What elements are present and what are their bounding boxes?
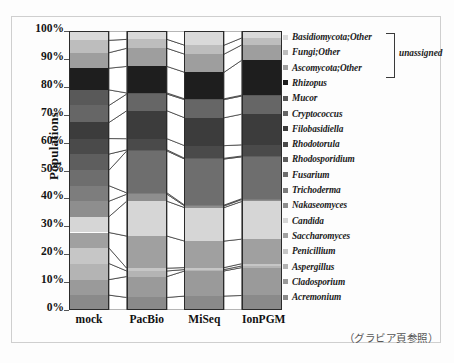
stacked-bar-plot-area xyxy=(69,31,282,310)
bar-segment xyxy=(127,150,167,151)
bar-segment xyxy=(184,158,224,159)
bar-segment xyxy=(184,100,224,118)
legend-swatch-icon xyxy=(283,233,288,238)
legend-swatch-icon xyxy=(283,157,288,162)
bar-segment xyxy=(242,145,282,156)
bar-column-pacbio[interactable] xyxy=(127,31,167,310)
y-tick-label: 40% xyxy=(41,189,64,201)
legend-swatch-icon xyxy=(283,295,288,300)
bar-segment xyxy=(184,45,224,54)
bar-segment xyxy=(242,60,282,95)
bar-column-mock[interactable] xyxy=(69,31,109,310)
legend-label: Cladosporium xyxy=(292,277,345,287)
legend-item[interactable]: Trichoderma xyxy=(283,183,341,197)
figure-caption: （グラビア頁参照） xyxy=(344,330,439,345)
legend-swatch-icon xyxy=(283,96,288,101)
legend-item[interactable]: Mucor xyxy=(283,91,317,105)
legend-label: Basidiomycota;Other xyxy=(292,32,372,42)
bar-segment xyxy=(242,114,282,145)
legend-label: Fusarium xyxy=(292,170,329,180)
legend-label: Rhizopus xyxy=(292,78,327,88)
bar-segment xyxy=(127,48,167,66)
bar-segment xyxy=(127,94,167,111)
legend-label: Penicillium xyxy=(292,246,335,256)
bar-column-ionpgm[interactable] xyxy=(242,31,282,310)
bar-segment xyxy=(69,105,109,122)
x-tick-label-ionpgm: IonPGM xyxy=(242,313,282,325)
bar-segment xyxy=(184,205,224,206)
bar-segment xyxy=(184,268,224,270)
bar-segment xyxy=(69,201,109,217)
x-axis-tick-labels: mockPacBioMiSeqIonPGM xyxy=(69,313,282,331)
legend-swatch-icon xyxy=(283,218,288,223)
legend-swatch-icon xyxy=(283,249,288,254)
legend-item[interactable]: Basidiomycota;Other xyxy=(283,30,372,44)
legend-item[interactable]: Ascomycota;Other xyxy=(283,61,362,75)
legend-item[interactable]: Filobasidiella xyxy=(283,122,343,136)
bar-segment xyxy=(184,159,224,205)
bar-segment xyxy=(69,139,109,155)
bar-segment xyxy=(242,295,282,310)
legend-label: Candida xyxy=(292,216,324,226)
bar-segment xyxy=(242,266,282,268)
unassigned-bracket xyxy=(386,33,395,78)
legend-swatch-icon xyxy=(283,142,288,147)
bar-segment xyxy=(184,72,224,99)
chart-figure: Populations 100%90%80%70%60%50%40%30%20%… xyxy=(0,0,454,363)
legend-item[interactable]: Rhodosporidium xyxy=(283,152,355,166)
legend-item[interactable]: Fungi;Other xyxy=(283,45,340,59)
bar-segment xyxy=(69,248,109,264)
legend-item[interactable]: Fusarium xyxy=(283,168,329,182)
legend-item[interactable]: Nakaseomyces xyxy=(283,198,347,212)
bar-segment xyxy=(127,151,167,193)
bar-segment xyxy=(242,38,282,45)
bar-segment xyxy=(69,295,109,310)
bar-segment xyxy=(242,31,282,38)
bar-segment xyxy=(242,95,282,96)
bar-segment xyxy=(127,201,167,236)
legend-label: Fungi;Other xyxy=(292,47,340,57)
legend-item[interactable]: Saccharomyces xyxy=(283,229,350,243)
legend-item[interactable]: Cryptococcus xyxy=(283,107,342,121)
bar-segment xyxy=(127,31,167,39)
bar-segment xyxy=(127,139,167,150)
bar-segment xyxy=(69,217,109,233)
y-tick-label: 100% xyxy=(35,22,64,34)
y-axis-tick-labels: 100%90%80%70%60%50%40%30%20%10%0% xyxy=(22,28,64,310)
legend-item[interactable]: Rhizopus xyxy=(283,76,327,90)
legend-swatch-icon xyxy=(283,188,288,193)
legend-item[interactable]: Aspergillus xyxy=(283,260,334,274)
bar-column-miseq[interactable] xyxy=(184,31,224,310)
bar-segment xyxy=(69,154,109,170)
y-tick-label: 0% xyxy=(47,301,64,313)
bar-segment xyxy=(127,93,167,94)
legend-item[interactable]: Candida xyxy=(283,214,324,228)
legend-label: Mucor xyxy=(292,93,317,103)
legend-item[interactable]: Acremonium xyxy=(283,290,341,304)
bar-segment xyxy=(242,268,282,296)
legend-label: Cryptococcus xyxy=(292,109,342,119)
y-tick-label: 90% xyxy=(41,50,64,62)
legend-item[interactable]: Penicillium xyxy=(283,244,335,258)
bar-segment xyxy=(242,156,282,157)
legend-item[interactable]: Cladosporium xyxy=(283,275,345,289)
legend-swatch-icon xyxy=(283,126,288,131)
y-tick-label: 30% xyxy=(41,217,64,229)
bar-segment xyxy=(242,201,282,239)
legend-swatch-icon xyxy=(283,80,288,85)
bar-segment xyxy=(127,193,167,194)
bar-segment xyxy=(127,297,167,310)
unassigned-label: unassigned xyxy=(399,48,442,58)
bar-segment xyxy=(69,90,109,106)
legend-label: Trichoderma xyxy=(292,185,341,195)
legend-swatch-icon xyxy=(283,279,288,284)
bar-segment xyxy=(127,268,167,271)
bar-segment xyxy=(184,296,224,310)
bar-segment xyxy=(242,157,282,199)
y-tick-label: 70% xyxy=(41,106,64,118)
legend-item[interactable]: Rhodotorula xyxy=(283,137,339,151)
bar-segment xyxy=(127,194,167,201)
x-tick-label-pacbio: PacBio xyxy=(127,313,167,325)
bar-segment xyxy=(184,99,224,100)
bar-segment xyxy=(127,277,167,298)
